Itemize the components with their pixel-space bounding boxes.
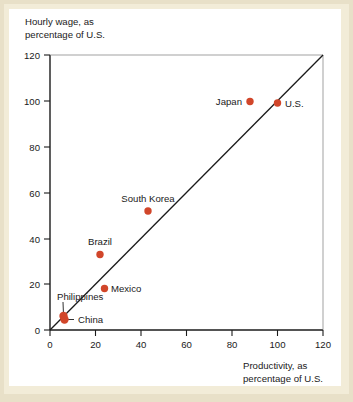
y-tick-label-60: 60	[29, 188, 40, 199]
data-label-mexico: Mexico	[111, 283, 141, 294]
data-label-japan: Japan	[216, 96, 242, 107]
data-point-china[interactable]	[60, 315, 68, 323]
data-label-us: U.S.	[285, 98, 304, 109]
y-tick-label-0: 0	[35, 325, 40, 336]
data-point-brazil[interactable]	[96, 251, 103, 258]
x-axis-title-line2: percentage of U.S.	[243, 373, 323, 384]
y-tick-label-100: 100	[24, 96, 40, 107]
data-label-philippines: Philippines	[57, 291, 104, 302]
y-axis-title-line1: Hourly wage, as	[25, 16, 94, 27]
x-tick-label-20: 20	[90, 339, 101, 350]
reference-line-45deg	[50, 55, 323, 330]
data-points	[59, 98, 281, 324]
y-tick-label-20: 20	[29, 279, 40, 290]
data-label-south-korea: South Korea	[121, 193, 175, 204]
x-tick-label-120: 120	[315, 339, 331, 350]
data-label-brazil: Brazil	[88, 236, 112, 247]
x-tick-label-0: 0	[47, 339, 52, 350]
y-axis-tick-labels: 0 20 40 60 80 100 120	[24, 50, 40, 336]
y-tick-label-40: 40	[29, 234, 40, 245]
x-axis-title-line1: Productivity, as	[243, 360, 308, 371]
x-axis-ticks	[50, 330, 323, 336]
scatter-plot: Hourly wage, as percentage of U.S. Produ…	[0, 0, 353, 402]
x-tick-label-100: 100	[269, 339, 285, 350]
x-tick-label-60: 60	[181, 339, 192, 350]
y-tick-label-80: 80	[29, 142, 40, 153]
y-axis-ticks	[44, 55, 50, 330]
data-point-japan[interactable]	[246, 98, 253, 105]
data-point-south-korea[interactable]	[144, 207, 151, 214]
x-axis-tick-labels: 0 20 40 60 80 100 120	[47, 339, 331, 350]
data-label-china: China	[78, 314, 104, 325]
data-point-us[interactable]	[274, 99, 281, 106]
x-tick-label-40: 40	[136, 339, 147, 350]
y-tick-label-120: 120	[24, 50, 40, 61]
figure-root: Hourly wage, as percentage of U.S. Produ…	[0, 0, 353, 402]
data-point-labels: China Philippines Mexico Brazil South Ko…	[57, 96, 304, 325]
x-tick-label-80: 80	[227, 339, 238, 350]
y-axis-title-line2: percentage of U.S.	[25, 29, 105, 40]
